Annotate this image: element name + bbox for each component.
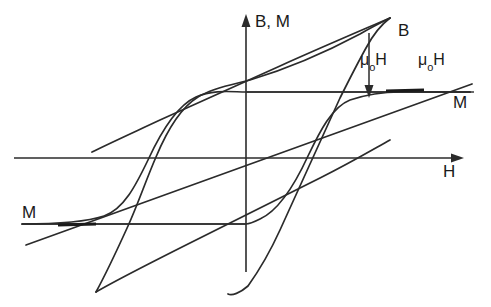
- mu0h-left-mu: μ: [360, 51, 369, 68]
- left-saturation-thick-segment: [58, 224, 96, 225]
- right-saturation-thick-segment: [386, 90, 424, 91]
- mu0h-left-subscript: o: [369, 61, 375, 73]
- vertical-axis-label: B, M: [255, 13, 290, 30]
- mu0h-left-h: H: [375, 51, 387, 68]
- b-curve-upper-branch: [96, 18, 390, 292]
- vertical-axis-arrowhead: [242, 14, 251, 27]
- mu0h-right-subscript: o: [427, 61, 433, 73]
- b-curve-lower-saturation-tail: [96, 140, 390, 292]
- mu0h-offset-label-left: μoH: [360, 52, 387, 71]
- axes-group: [14, 14, 464, 272]
- horizontal-axis-label: H: [443, 163, 455, 180]
- mu0h-slope-line: [26, 84, 472, 245]
- mu0h-offset-label-right: μoH: [418, 52, 445, 71]
- mu0h-right-mu: μ: [418, 51, 427, 68]
- m-curve-label-left: M: [22, 204, 36, 221]
- hysteresis-plot-svg: [0, 0, 491, 307]
- b-hysteresis-loop: [92, 18, 390, 295]
- b-curve-label: B: [398, 22, 409, 39]
- b-curve-upper-saturation-tail: [92, 18, 390, 152]
- mu0h-right-h: H: [433, 51, 445, 68]
- m-curve-label-right: M: [453, 94, 467, 111]
- hysteresis-figure: B, M H B μoH μoH M M: [0, 0, 491, 307]
